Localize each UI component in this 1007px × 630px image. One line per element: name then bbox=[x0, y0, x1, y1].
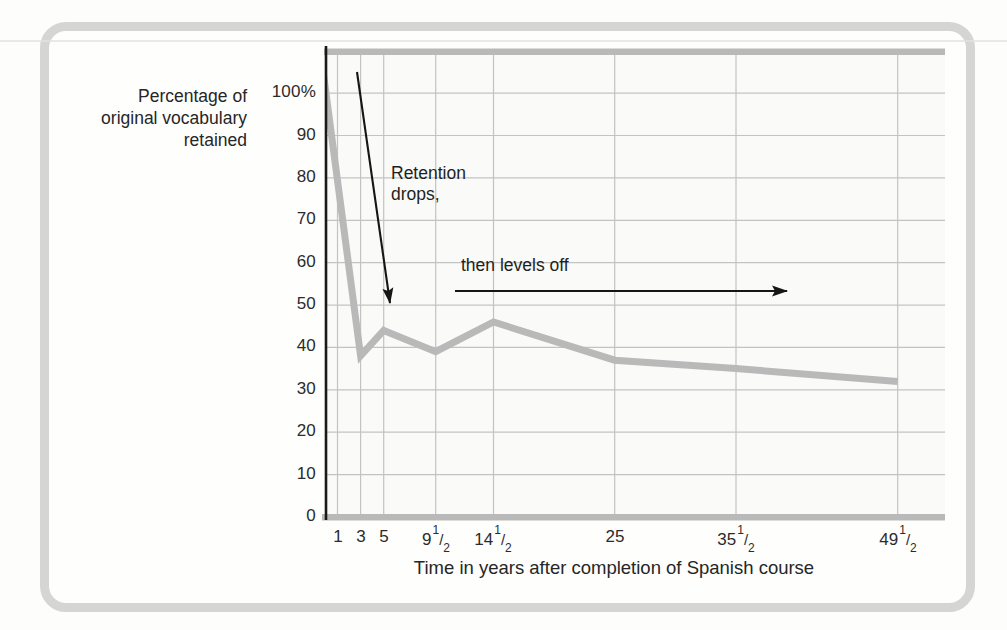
annotation-retention-drops: Retention drops, bbox=[391, 163, 466, 205]
y-tick-label: 0 bbox=[226, 506, 316, 526]
y-tick-label: 20 bbox=[226, 421, 316, 441]
y-tick-label: 30 bbox=[226, 379, 316, 399]
page: Percentage of original vocabulary retain… bbox=[0, 0, 1007, 630]
annotation-levels-off: then levels off bbox=[461, 255, 569, 276]
y-tick-label: 50 bbox=[226, 294, 316, 314]
y-tick-label: 80 bbox=[226, 167, 316, 187]
y-tick-label: 100% bbox=[226, 82, 316, 102]
y-tick-label: 90 bbox=[226, 125, 316, 145]
x-tick-label: 25 bbox=[580, 527, 650, 547]
y-tick-label: 40 bbox=[226, 336, 316, 356]
annotation-line: Retention bbox=[391, 163, 466, 184]
x-axis-title: Time in years after completion of Spanis… bbox=[414, 557, 814, 579]
x-axis-baseline bbox=[322, 514, 945, 521]
annotation-line: drops, bbox=[391, 184, 466, 205]
y-axis-title: Percentage of original vocabulary retain… bbox=[55, 85, 247, 151]
x-tick-label: 491/2 bbox=[863, 527, 933, 552]
y-axis-title-line-2: original vocabulary bbox=[55, 107, 247, 129]
y-tick-label: 10 bbox=[226, 464, 316, 484]
x-tick-label: 351/2 bbox=[701, 527, 771, 552]
y-tick-label: 70 bbox=[226, 209, 316, 229]
plot-area bbox=[326, 52, 945, 517]
y-axis-title-line-3: retained bbox=[55, 129, 247, 151]
annotation-line: then levels off bbox=[461, 255, 569, 276]
x-tick-label: 141/2 bbox=[458, 527, 528, 552]
y-axis-title-line-1: Percentage of bbox=[55, 85, 247, 107]
y-tick-label: 60 bbox=[226, 252, 316, 272]
scan-artifact-line bbox=[0, 40, 1007, 42]
plot-top-border bbox=[324, 49, 945, 56]
